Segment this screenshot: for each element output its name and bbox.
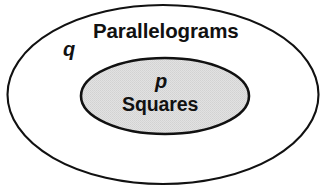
outer-set-variable-label: q bbox=[63, 39, 75, 59]
inner-set-label: Squares bbox=[122, 95, 198, 115]
outer-set-label: Parallelograms bbox=[93, 21, 239, 42]
euler-diagram: Parallelograms q p Squares bbox=[0, 0, 324, 193]
inner-set-variable-label: p bbox=[155, 71, 167, 91]
